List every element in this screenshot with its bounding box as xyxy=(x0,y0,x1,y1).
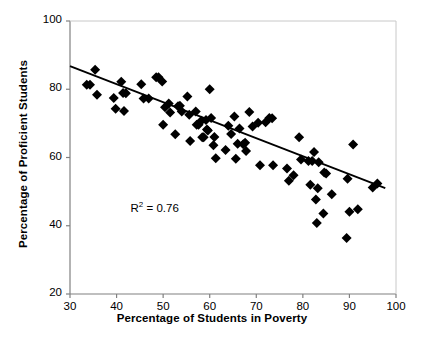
x-tick-label: 80 xyxy=(286,300,320,312)
x-tick-label: 50 xyxy=(146,300,180,312)
x-tick-label: 40 xyxy=(100,300,134,312)
y-tick-label: 40 xyxy=(28,218,62,230)
y-tick-label: 20 xyxy=(28,286,62,298)
x-tick-label: 60 xyxy=(193,300,227,312)
x-axis-title: Percentage of Students in Poverty xyxy=(0,312,424,324)
scatter-plot-figure: Percentage of Students in Poverty Percen… xyxy=(0,0,424,349)
x-tick-label: 30 xyxy=(53,300,87,312)
r-squared-symbol: R xyxy=(131,202,139,214)
x-tick-label: 100 xyxy=(379,300,413,312)
y-tick-label: 60 xyxy=(28,150,62,162)
r-squared-value: = 0.76 xyxy=(143,202,179,214)
r-squared-annotation: R2 = 0.76 xyxy=(131,202,179,214)
plot-canvas xyxy=(0,0,424,349)
x-tick-label: 70 xyxy=(239,300,273,312)
x-tick-label: 90 xyxy=(332,300,366,312)
y-tick-label: 100 xyxy=(28,13,62,25)
y-tick-label: 80 xyxy=(28,81,62,93)
